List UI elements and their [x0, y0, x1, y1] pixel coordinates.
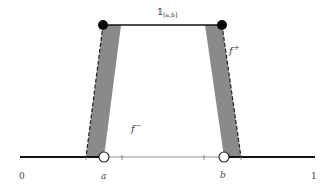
f-plus-superscript: + [234, 44, 240, 52]
f-plus-symbol: f [229, 45, 233, 56]
b-open-circle [219, 152, 229, 162]
indicator-subscript: [a,b] [163, 11, 177, 18]
top-left-filled-dot [98, 20, 108, 30]
f-minus-symbol: f [131, 123, 135, 134]
axis-label-b: b [220, 171, 226, 180]
top-right-filled-dot [217, 20, 227, 30]
axis-label-a: a [101, 172, 106, 181]
f-minus-superscript: − [136, 122, 142, 130]
left-shaded-band [86, 25, 121, 157]
axis-label-one: 1 [311, 172, 317, 181]
f-plus-label: f+ [229, 45, 240, 56]
diagram-canvas [0, 0, 334, 188]
f-minus-label: f− [131, 123, 142, 134]
axis-label-zero: 0 [19, 172, 25, 181]
a-open-circle [99, 152, 109, 162]
indicator-label: 𝟙[a,b] [157, 8, 177, 18]
